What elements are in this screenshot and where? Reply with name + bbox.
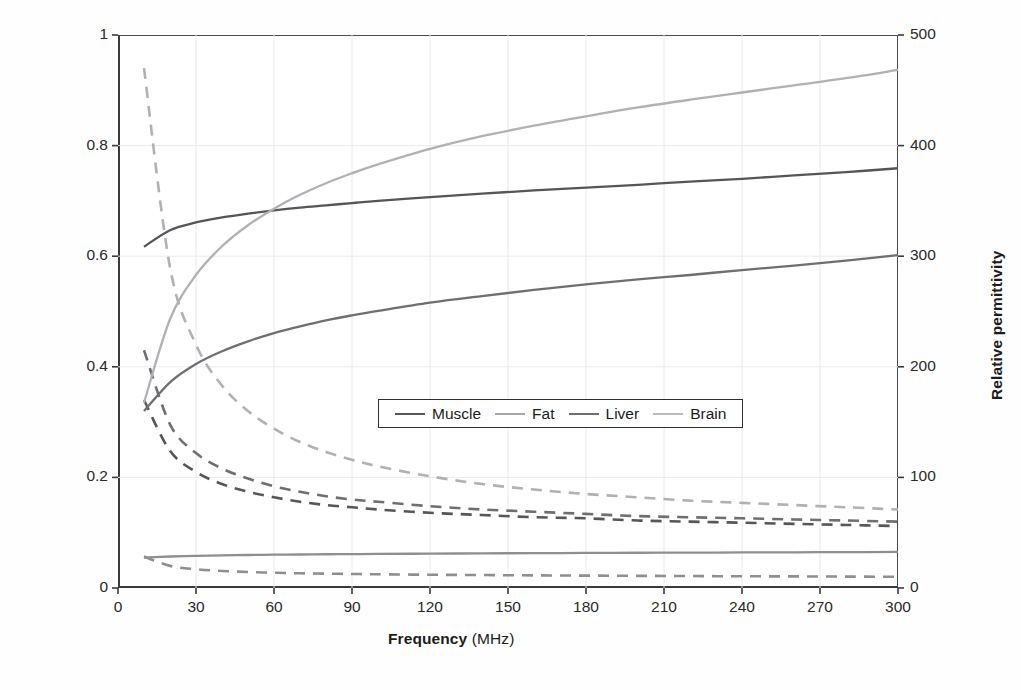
series-brain-permittivity [144,68,898,509]
legend-line-icon [395,413,425,415]
series-liver-conductivity [144,255,898,411]
legend: MuscleFatLiverBrain [378,399,743,428]
series-liver-permittivity [144,350,898,521]
series-brain-conductivity [144,70,898,403]
figure-root: Conductivity (Sm-1) Relative permittivit… [0,0,1021,690]
legend-item-label: Fat [532,406,554,422]
x-axis-tick-label: 30 [166,598,226,616]
x-axis-tick-label: 270 [790,598,850,616]
y-axis-right-tick-label: 0 [910,578,962,596]
y-axis-right-title: Relative permittivity [988,251,1006,400]
legend-item-fat[interactable]: Fat [488,406,561,422]
x-axis-tick-label: 120 [400,598,460,616]
x-axis-tick-label: 300 [868,598,928,616]
x-axis-title-text: Frequency [388,630,467,647]
y-axis-right-tick-label: 300 [910,246,962,264]
x-axis-tick-label: 210 [634,598,694,616]
chart-canvas [0,0,1021,690]
series-muscle-conductivity [144,168,898,247]
legend-item-label: Brain [690,406,726,422]
series-fat-conductivity [144,552,898,558]
y-axis-right-tick-label: 400 [910,136,962,154]
x-axis-tick-label: 90 [322,598,382,616]
legend-item-liver[interactable]: Liver [562,406,647,422]
legend-item-brain[interactable]: Brain [646,406,733,422]
series-fat-permittivity [144,556,898,576]
y-axis-right-tick-label: 500 [910,25,962,43]
x-axis-tick-label: 150 [478,598,538,616]
legend-item-label: Liver [606,406,640,422]
y-axis-right-tick-label: 100 [910,467,962,485]
y-axis-right-tick-label: 200 [910,357,962,375]
legend-line-icon [569,413,599,415]
x-axis-tick-label: 240 [712,598,772,616]
legend-line-icon [495,413,525,415]
y-axis-left-tick-label: 0.4 [60,357,108,375]
x-axis-tick-label: 0 [88,598,148,616]
x-axis-tick-label: 180 [556,598,616,616]
legend-line-icon [653,413,683,415]
y-axis-left-tick-label: 1 [60,25,108,43]
x-axis-title: Frequency (MHz) [388,630,514,648]
y-axis-left-tick-label: 0.2 [60,467,108,485]
legend-item-label: Muscle [432,406,481,422]
y-axis-left-tick-label: 0.6 [60,246,108,264]
y-axis-left-tick-label: 0 [60,578,108,596]
x-axis-unit: (MHz) [472,630,515,647]
y-axis-left-tick-label: 0.8 [60,136,108,154]
legend-item-muscle[interactable]: Muscle [388,406,488,422]
x-axis-tick-label: 60 [244,598,304,616]
